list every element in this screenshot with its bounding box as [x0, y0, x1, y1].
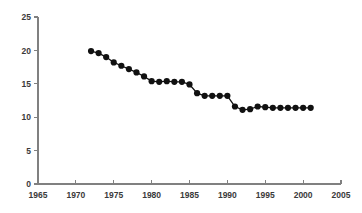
y-tick-label: 5 [26, 146, 31, 156]
data-point [239, 107, 245, 113]
data-point [277, 105, 283, 111]
data-point [262, 104, 268, 110]
data-point [179, 79, 185, 85]
line-chart: 0510152025 19651970197519801985199019952… [0, 0, 362, 213]
x-tick-label: 2000 [294, 190, 313, 200]
data-point [202, 93, 208, 99]
data-point [292, 105, 298, 111]
y-tick-label: 15 [22, 79, 32, 89]
y-tick-label: 0 [26, 179, 31, 189]
data-point [270, 105, 276, 111]
data-point [88, 48, 94, 54]
data-point [300, 105, 306, 111]
data-point [171, 79, 177, 85]
data-point [156, 79, 162, 85]
y-tick-label: 20 [22, 46, 32, 56]
y-axis: 0510152025 [22, 12, 38, 189]
x-tick-label: 1995 [256, 190, 275, 200]
x-tick-label: 1970 [66, 190, 85, 200]
data-point [308, 105, 314, 111]
y-tick-label: 10 [22, 112, 32, 122]
x-tick-label: 1985 [180, 190, 199, 200]
data-point [217, 93, 223, 99]
x-tick-label: 1975 [104, 190, 123, 200]
data-point [224, 93, 230, 99]
data-point [164, 78, 170, 84]
data-point [209, 93, 215, 99]
series-line [91, 51, 311, 110]
data-point [126, 66, 132, 72]
data-point [111, 59, 117, 65]
y-tick-label: 25 [22, 12, 32, 22]
data-point [133, 69, 139, 75]
data-point [232, 103, 238, 109]
data-point [247, 106, 253, 112]
data-point [186, 81, 192, 87]
x-tick-label: 2005 [332, 190, 351, 200]
x-tick-label: 1980 [142, 190, 161, 200]
x-axis: 196519701975198019851990199520002005 [29, 180, 351, 200]
data-point [255, 103, 261, 109]
data-point [118, 63, 124, 69]
data-point [194, 90, 200, 96]
x-tick-label: 1965 [29, 190, 48, 200]
data-point [285, 105, 291, 111]
data-series [88, 48, 314, 113]
data-point [103, 54, 109, 60]
data-point [149, 78, 155, 84]
x-tick-label: 1990 [218, 190, 237, 200]
data-point [96, 50, 102, 56]
chart-container: 0510152025 19651970197519801985199019952… [0, 0, 362, 213]
data-point [141, 73, 147, 79]
